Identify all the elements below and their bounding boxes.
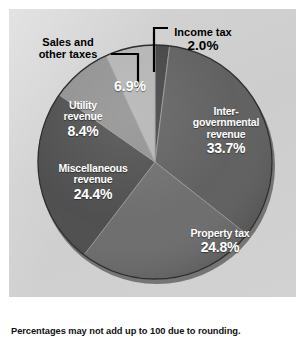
- slice-name: Property tax: [164, 228, 276, 239]
- callout-label-income-tax: Income tax 2.0%: [160, 26, 246, 53]
- slice-percent: 24.8%: [164, 240, 276, 255]
- slice-label-miscellaneous-revenue: Miscellaneous revenue 24.4%: [38, 163, 148, 202]
- callout-name-line-1: Sales and: [22, 36, 114, 48]
- slice-name-line-2: revenue: [38, 174, 148, 185]
- slice-label-utility-revenue: Utility revenue 8.4%: [44, 100, 122, 139]
- callout-label-sales-and-other-taxes: Sales and other taxes: [22, 36, 114, 61]
- pie-chart-figure: Inter- governmental revenue 33.7% Proper…: [0, 0, 305, 351]
- slice-name-line-3: revenue: [178, 129, 274, 140]
- slice-label-intergovernmental: Inter- governmental revenue 33.7%: [178, 106, 274, 156]
- slice-percent: 24.4%: [38, 187, 148, 202]
- callout-name: Income tax: [160, 26, 246, 38]
- slice-name-line-2: revenue: [44, 111, 122, 122]
- slice-name-line-2: governmental: [178, 117, 274, 128]
- slice-percent: 33.7%: [178, 141, 274, 156]
- leader-line-income-tax: [148, 26, 170, 74]
- callout-name-line-2: other taxes: [22, 48, 114, 60]
- slice-percent-sales-and-other-taxes: 6.9%: [114, 78, 146, 94]
- slice-label-property-tax: Property tax 24.8%: [164, 228, 276, 255]
- callout-percent: 2.0%: [160, 38, 246, 53]
- slice-percent: 8.4%: [44, 124, 122, 139]
- footnote-text: Percentages may not add up to 100 due to…: [11, 326, 240, 336]
